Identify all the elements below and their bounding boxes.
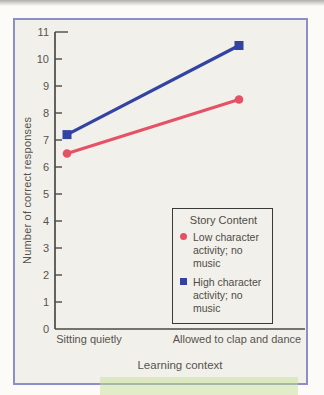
x-tick-label-clap-and-dance: Allowed to clap and dance	[173, 333, 301, 345]
legend-item-label: High character activity; no music	[193, 276, 267, 314]
data-point-square	[63, 130, 72, 139]
y-tick-label: 0	[43, 323, 49, 335]
series-line-0	[67, 100, 239, 154]
y-tick-label: 10	[37, 53, 49, 65]
y-tick-label: 6	[43, 161, 49, 173]
legend-marker-square-icon	[180, 278, 187, 285]
y-tick-label: 5	[43, 188, 49, 200]
y-tick-label: 4	[43, 215, 49, 227]
y-tick-label: 9	[43, 80, 49, 92]
legend-item-low-character: Low character activity; no music	[180, 231, 267, 269]
legend-item-high-character: High character activity; no music	[180, 276, 267, 314]
y-axis-title: Number of correct responses	[19, 105, 34, 275]
textbook-figure-page: 01234567891011 Number of correct respons…	[0, 0, 324, 395]
y-tick-label: 3	[43, 242, 49, 254]
y-tick-label: 1	[43, 296, 49, 308]
legend-marker-circle-icon	[180, 233, 187, 240]
legend: Story Content Low character activity; no…	[172, 208, 273, 324]
data-point-square	[235, 41, 244, 50]
green-highlighter-mark	[100, 377, 298, 395]
y-tick-label: 2	[43, 269, 49, 281]
x-axis-title: Learning context	[137, 359, 222, 371]
data-point-circle	[63, 149, 72, 158]
scan-edge-shadow	[0, 0, 324, 6]
chart-panel: 01234567891011 Number of correct respons…	[13, 18, 308, 385]
y-tick-label: 11	[38, 26, 49, 38]
series-line-1	[67, 46, 239, 135]
y-tick-label: 8	[43, 107, 49, 119]
plot-area: 01234567891011	[15, 20, 306, 383]
data-point-circle	[235, 95, 244, 104]
legend-item-label: Low character activity; no music	[193, 231, 267, 269]
x-tick-label-sitting-quietly: Sitting quietly	[56, 333, 121, 345]
y-tick-label: 7	[43, 134, 49, 146]
legend-title: Story Content	[180, 214, 267, 226]
